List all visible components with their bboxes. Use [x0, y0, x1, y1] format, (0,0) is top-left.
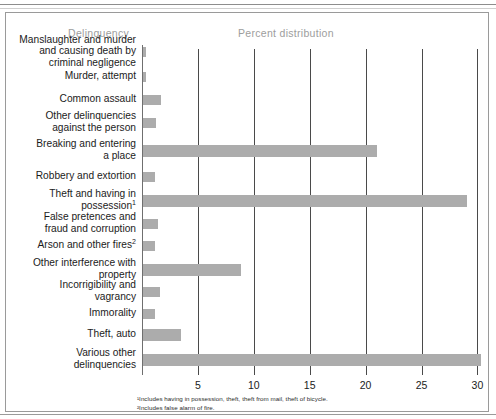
plot-area: Manslaughter and murderand causing death… [142, 45, 485, 375]
category-label: Manslaughter and murderand causing death… [6, 34, 136, 69]
bar [143, 72, 146, 82]
gridline-5 [198, 49, 199, 375]
footnote-1: ¹Includes having in possession, theft, t… [137, 395, 328, 402]
category-label: Theft and having inpossession1 [6, 188, 136, 211]
gridline-25 [422, 49, 423, 375]
category-label: Theft, auto [6, 328, 136, 340]
category-label: Other delinquenciesagainst the person [6, 110, 136, 133]
bar [143, 47, 146, 57]
bar [143, 329, 181, 341]
bar [143, 195, 467, 207]
bar [143, 172, 155, 182]
x-tick-label-30: 30 [465, 379, 489, 391]
bar [143, 287, 160, 297]
column-header-percent-distribution: Percent distribution [238, 27, 334, 39]
category-label: Murder, attempt [6, 70, 136, 82]
category-label: Robbery and extortion [6, 170, 136, 182]
bar [143, 219, 158, 229]
bottom-rule [0, 414, 496, 415]
category-label: False pretences andfraud and corruption [6, 211, 136, 234]
footnote-2: ²Includes false alarm of fire. [137, 404, 215, 411]
bar [143, 241, 155, 251]
bar [143, 309, 155, 319]
gridline-10 [254, 49, 255, 375]
bar [143, 354, 481, 366]
gridline-30 [477, 49, 478, 375]
bar [143, 264, 241, 276]
top-rule-light [0, 8, 496, 9]
category-label: Various otherdelinquencies [6, 347, 136, 370]
category-label: Other interference withproperty [6, 257, 136, 280]
gridline-15 [310, 49, 311, 375]
bar [143, 118, 156, 128]
chart-figure: Delinquency Percent distribution Manslau… [5, 12, 489, 412]
category-label: Common assault [6, 93, 136, 105]
x-tick-label-10: 10 [242, 379, 266, 391]
x-tick-label-25: 25 [410, 379, 434, 391]
bar [143, 145, 377, 157]
category-label: Incorrigibility andvagrancy [6, 279, 136, 302]
top-rule-dark [0, 4, 496, 5]
x-tick-label-5: 5 [186, 379, 210, 391]
category-label: Breaking and enteringa place [6, 138, 136, 161]
category-label: Arson and other fires2 [6, 239, 136, 251]
x-tick-label-15: 15 [298, 379, 322, 391]
bar [143, 95, 161, 105]
category-label: Immorality [6, 307, 136, 319]
gridline-20 [366, 49, 367, 375]
x-tick-label-20: 20 [354, 379, 378, 391]
